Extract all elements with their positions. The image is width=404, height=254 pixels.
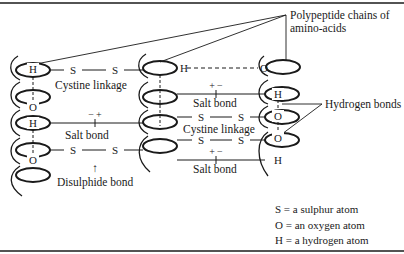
label-polypeptide-line2: amino-acids (290, 22, 347, 34)
label-disulphide-bond: Disulphide bond (57, 176, 134, 189)
legend-oxygen: O = an oxygen atom (275, 219, 365, 231)
middle-helix (139, 54, 177, 172)
charge-mid-salt-top: + − (209, 80, 223, 91)
legend-sulphur: S = a sulphur atom (275, 203, 359, 215)
atom-s-disulphide-left: S (70, 144, 76, 156)
atom-h-middle-top: H (180, 62, 188, 74)
atom-s-cystine-mid-left: S (198, 111, 204, 123)
atom-s-disulphide-right: S (112, 144, 118, 156)
label-hydrogen-bonds: Hydrogen bonds (325, 98, 402, 111)
label-salt-bond-left: Salt bond (65, 129, 109, 141)
label-cystine-linkage-mid: Cystine linkage (183, 123, 255, 136)
atom-h-right-1: H (274, 88, 282, 100)
atom-s-top-left: S (70, 64, 76, 76)
atom-s-lower-mid-right: S (238, 134, 244, 146)
protein-bonds-diagram: H O H O H O O H (0, 0, 404, 254)
atom-o-right-2: O (274, 132, 282, 144)
atom-o-right-1: O (274, 110, 282, 122)
atom-o-right-top: O (260, 62, 268, 74)
atom-s-top-right: S (112, 64, 118, 76)
atom-h-left-1: H (29, 63, 37, 75)
atom-o-left-1: O (29, 101, 37, 113)
hydrogen-bond-pointer-lines (278, 104, 322, 137)
atom-h-left-2: H (29, 117, 37, 129)
label-salt-bond-mid-top: Salt bond (193, 97, 237, 109)
label-salt-bond-mid-bottom: Salt bond (193, 163, 237, 175)
legend: S = a sulphur atom O = an oxygen atom H … (275, 203, 369, 246)
charge-left-salt: − + (88, 109, 102, 120)
chain-pointer-lines (36, 15, 286, 64)
charge-mid-salt-bottom: + − (209, 146, 223, 157)
atom-h-right-2: H (274, 154, 282, 166)
atom-o-left-2: O (29, 154, 37, 166)
atom-s-cystine-mid-right: S (238, 111, 244, 123)
label-cystine-linkage-top: Cystine linkage (55, 79, 127, 92)
diagram-canvas: H O H O H O O H (0, 0, 404, 254)
atom-s-lower-mid-left: S (198, 134, 204, 146)
legend-hydrogen: H = a hydrogen atom (275, 234, 369, 246)
disulphide-arrow: ↑ (92, 162, 98, 174)
label-polypeptide-line1: Polypeptide chains of (290, 9, 390, 22)
